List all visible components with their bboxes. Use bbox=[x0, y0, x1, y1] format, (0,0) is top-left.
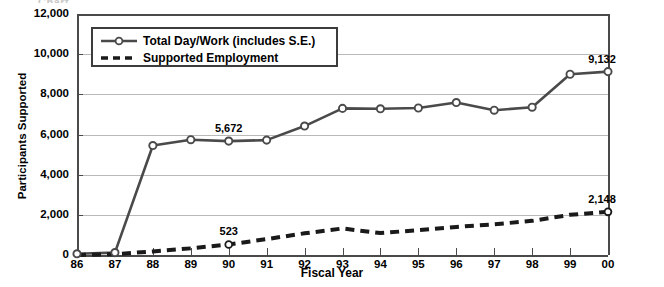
x-axis-tick-label: 96 bbox=[436, 258, 476, 270]
y-axis-tick-label: 12,000 bbox=[7, 8, 69, 20]
x-axis-tick-label: 94 bbox=[360, 258, 400, 270]
plot-border-bottom bbox=[77, 255, 608, 257]
legend-label-0: Total Day/Work (includes S.E.) bbox=[143, 34, 315, 48]
data-point-marker bbox=[604, 68, 611, 75]
y-axis-tick-label: 8,000 bbox=[7, 88, 69, 100]
legend-item-supported-employment: Supported Employment bbox=[99, 49, 330, 66]
solid-line-circle-marker-icon bbox=[99, 34, 139, 48]
x-axis-tick-label: 93 bbox=[323, 258, 363, 270]
data-point-marker bbox=[225, 137, 232, 144]
data-point-marker bbox=[453, 99, 460, 106]
chart-legend: Total Day/Work (includes S.E.) Supported… bbox=[91, 27, 338, 67]
x-axis-tick-label: 90 bbox=[209, 258, 249, 270]
data-label: 2,148 bbox=[572, 193, 632, 205]
data-point-marker bbox=[491, 107, 498, 114]
chart-title-cropped: Chart bbox=[38, 0, 188, 3]
series-line-0 bbox=[77, 72, 608, 254]
data-point-marker bbox=[605, 208, 612, 215]
x-axis-tick-label: 92 bbox=[285, 258, 325, 270]
data-point-marker bbox=[339, 105, 346, 112]
x-axis-tick-label: 87 bbox=[95, 258, 135, 270]
x-axis-tick-label: 86 bbox=[57, 258, 97, 270]
data-point-marker bbox=[149, 142, 156, 149]
x-axis-tick-label: 98 bbox=[512, 258, 552, 270]
x-axis-tick-label: 91 bbox=[247, 258, 287, 270]
data-label: 5,672 bbox=[199, 122, 259, 134]
data-point-marker bbox=[529, 104, 536, 111]
data-point-marker bbox=[73, 250, 80, 257]
x-axis-tick-label: 95 bbox=[398, 258, 438, 270]
data-point-marker bbox=[566, 71, 573, 78]
data-point-marker bbox=[111, 249, 118, 256]
x-axis-tick-label: 88 bbox=[133, 258, 173, 270]
plot-border-right bbox=[608, 14, 610, 255]
x-axis-tick-label: 89 bbox=[171, 258, 211, 270]
legend-item-total-day-work: Total Day/Work (includes S.E.) bbox=[99, 32, 330, 49]
y-axis-tick-label: 2,000 bbox=[7, 209, 69, 221]
x-axis-tick-label: 97 bbox=[474, 258, 514, 270]
series-line-1 bbox=[77, 212, 608, 255]
data-point-marker bbox=[415, 104, 422, 111]
legend-label-1: Supported Employment bbox=[143, 51, 278, 65]
data-point-marker bbox=[187, 136, 194, 143]
x-axis-tick-label: 00 bbox=[588, 258, 628, 270]
y-axis-tick-label: 10,000 bbox=[7, 48, 69, 60]
data-label: 9,132 bbox=[572, 53, 632, 65]
dashed-line-icon bbox=[99, 51, 139, 65]
x-axis-tick-label: 99 bbox=[550, 258, 590, 270]
data-point-marker bbox=[263, 137, 270, 144]
data-point-marker bbox=[225, 241, 232, 248]
y-axis-tick-label: 4,000 bbox=[7, 169, 69, 181]
data-label: 523 bbox=[199, 225, 259, 237]
data-point-marker bbox=[301, 122, 308, 129]
data-point-marker bbox=[377, 105, 384, 112]
chart-container: Chart Participants Supported Fiscal Year… bbox=[0, 0, 664, 287]
y-axis-tick-label: 6,000 bbox=[7, 129, 69, 141]
